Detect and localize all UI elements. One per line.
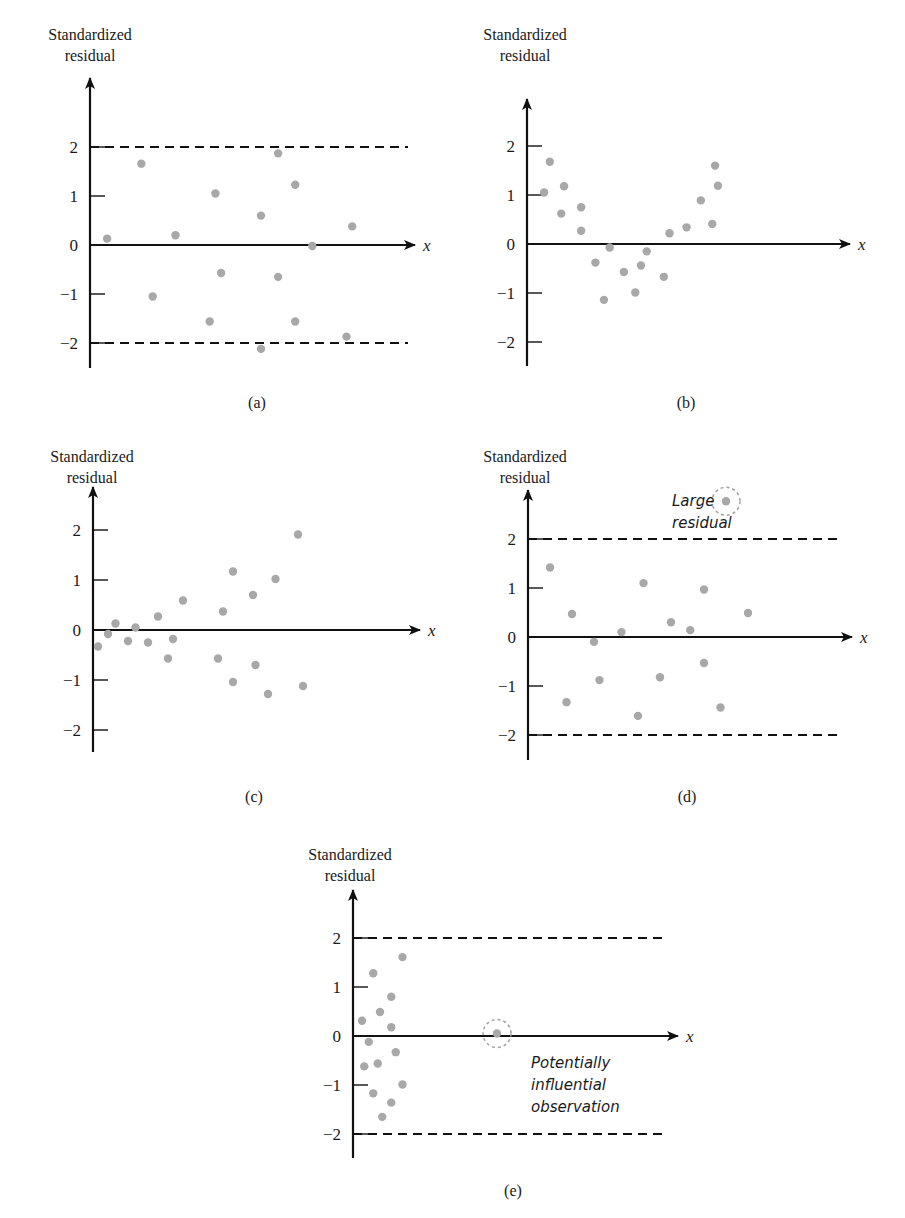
y-axis-title: residual xyxy=(65,47,116,64)
data-point xyxy=(560,182,568,190)
panel-e: Standardizedresidualx210−1−2Potentiallyi… xyxy=(308,846,694,1200)
data-point xyxy=(251,661,259,669)
data-point xyxy=(206,317,214,325)
data-point xyxy=(378,1113,386,1121)
x-axis-label: x xyxy=(685,1027,694,1046)
panel-label: (d) xyxy=(678,788,697,806)
data-point xyxy=(387,993,395,1001)
y-tick-label: −1 xyxy=(498,677,516,696)
data-point xyxy=(164,654,172,662)
x-axis-label: x xyxy=(427,621,436,640)
data-point xyxy=(274,273,282,281)
x-axis-label: x xyxy=(859,628,868,647)
data-point xyxy=(291,317,299,325)
y-tick-label: −1 xyxy=(60,285,78,304)
y-tick-label: 0 xyxy=(73,621,82,640)
data-point xyxy=(365,1038,373,1046)
data-point xyxy=(369,969,377,977)
y-tick-label: 0 xyxy=(507,235,516,254)
data-point xyxy=(94,642,102,650)
data-point xyxy=(620,268,628,276)
panel-c: Standardizedresidualx210−1−2(c) xyxy=(50,448,436,806)
y-tick-label: −1 xyxy=(497,284,515,303)
annotation-text: Large xyxy=(672,492,714,510)
y-axis-title: Standardized xyxy=(483,448,567,465)
annotation-text: observation xyxy=(531,1098,620,1116)
residual-plots-figure: Standardizedresidualx210−1−2(a)Standardi… xyxy=(0,0,905,1218)
data-point xyxy=(697,196,705,204)
data-point xyxy=(348,222,356,230)
y-axis-title: Standardized xyxy=(308,846,392,863)
annotation-text: influential xyxy=(531,1076,607,1094)
data-point xyxy=(387,1098,395,1106)
data-point xyxy=(595,676,603,684)
data-point xyxy=(257,211,265,219)
annotation-text: Potentially xyxy=(531,1054,611,1072)
y-axis-title: residual xyxy=(325,867,376,884)
data-point xyxy=(217,269,225,277)
data-point xyxy=(149,292,157,300)
data-point xyxy=(700,659,708,667)
data-point xyxy=(219,607,227,615)
data-point xyxy=(124,637,132,645)
highlighted-point xyxy=(493,1029,501,1037)
panel-label: (e) xyxy=(504,1182,522,1200)
data-point xyxy=(600,296,608,304)
x-axis-label: x xyxy=(857,235,866,254)
data-point xyxy=(540,188,548,196)
data-point xyxy=(229,678,237,686)
panel-label: (c) xyxy=(245,788,263,806)
y-tick-label: 2 xyxy=(70,138,79,157)
y-tick-label: 1 xyxy=(333,978,342,997)
y-axis-title: Standardized xyxy=(483,26,567,43)
x-axis-label: x xyxy=(422,236,431,255)
data-point xyxy=(590,638,598,646)
data-point xyxy=(562,698,570,706)
data-point xyxy=(605,243,613,251)
data-point xyxy=(249,591,257,599)
data-point xyxy=(617,628,625,636)
panel-d: Standardizedresidualx210−1−2Largeresidua… xyxy=(483,448,868,806)
data-point xyxy=(546,157,554,165)
data-point xyxy=(660,273,668,281)
y-tick-label: 1 xyxy=(507,186,516,205)
data-point xyxy=(229,567,237,575)
panel-b: Standardizedresidualx210−1−2(b) xyxy=(483,26,866,412)
highlighted-point xyxy=(722,497,730,505)
panel-label: (a) xyxy=(248,394,266,412)
data-point xyxy=(171,231,179,239)
y-tick-label: 2 xyxy=(507,137,516,156)
y-tick-label: 1 xyxy=(70,187,79,206)
data-point xyxy=(667,618,675,626)
y-tick-label: −1 xyxy=(323,1076,341,1095)
data-point xyxy=(308,242,316,250)
data-point xyxy=(374,1059,382,1067)
data-point xyxy=(376,1008,384,1016)
data-point xyxy=(299,682,307,690)
data-point xyxy=(264,690,272,698)
data-point xyxy=(387,1023,395,1031)
data-point xyxy=(360,1062,368,1070)
y-tick-label: 0 xyxy=(70,236,79,255)
data-point xyxy=(211,189,219,197)
y-tick-label: −1 xyxy=(63,671,81,690)
data-point xyxy=(744,609,752,617)
annotation-text: residual xyxy=(672,514,733,532)
data-point xyxy=(274,149,282,157)
data-point xyxy=(369,1089,377,1097)
y-tick-label: −2 xyxy=(63,721,81,740)
data-point xyxy=(714,181,722,189)
data-point xyxy=(154,612,162,620)
panel-a: Standardizedresidualx210−1−2(a) xyxy=(48,26,431,412)
data-point xyxy=(557,209,565,217)
data-point xyxy=(639,579,647,587)
y-tick-label: 2 xyxy=(333,929,342,948)
y-tick-label: 1 xyxy=(508,579,517,598)
y-tick-label: 1 xyxy=(73,571,82,590)
y-tick-label: −2 xyxy=(497,333,515,352)
y-axis-title: residual xyxy=(500,47,551,64)
y-axis-title: residual xyxy=(67,469,118,486)
data-point xyxy=(137,159,145,167)
data-point xyxy=(271,575,279,583)
data-point xyxy=(392,1048,400,1056)
